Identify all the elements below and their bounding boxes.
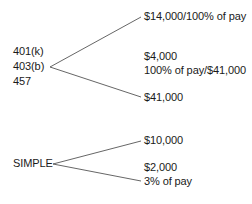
plan-label-457: 457 <box>13 74 44 89</box>
plan-label-simple: SIMPLE <box>13 157 53 170</box>
branch-label-simple-catchup: $2,000 <box>144 161 177 174</box>
connector-lines <box>0 0 252 204</box>
plan-label-403b: 403(b) <box>13 59 44 74</box>
connector-401k-lower <box>50 67 141 97</box>
plan-label-401k: 401(k) <box>13 44 44 59</box>
branch-label-simple-match: 3% of pay <box>144 175 192 188</box>
plan-types-group: 401(k) 403(b) 457 <box>13 44 44 89</box>
branch-label-simple-limit: $10,000 <box>144 134 183 147</box>
connector-simple-lower <box>53 164 141 181</box>
branch-label-total-limit: $41,000 <box>144 91 183 104</box>
connector-401k-upper <box>50 17 141 67</box>
connector-simple-upper <box>53 141 141 164</box>
branch-label-employee-limit: $14,000/100% of pay <box>144 10 246 23</box>
branch-label-catchup: $4,000 <box>144 50 177 63</box>
branch-label-total-percent: 100% of pay/$41,000 <box>144 64 246 77</box>
